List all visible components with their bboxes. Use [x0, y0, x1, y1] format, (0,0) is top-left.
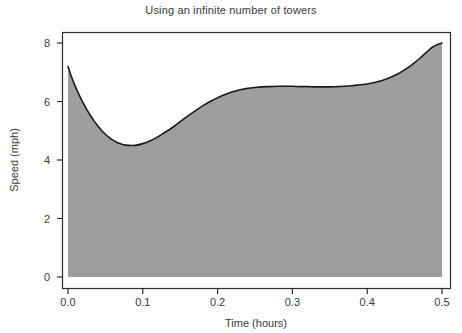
- x-axis: 0.00.10.20.30.40.5: [60, 289, 449, 309]
- x-tick-label: 0.1: [135, 296, 150, 308]
- y-tick-label: 2: [44, 213, 50, 225]
- speed-area-fill: [68, 43, 442, 277]
- x-tick-label: 0.3: [285, 296, 300, 308]
- y-axis-title: Speed (mph): [8, 128, 20, 192]
- y-tick-label: 6: [44, 96, 50, 108]
- y-tick-label: 4: [44, 154, 50, 166]
- x-tick-label: 0.4: [360, 296, 375, 308]
- x-tick-label: 0.5: [434, 296, 449, 308]
- y-tick-label: 0: [44, 271, 50, 283]
- y-axis: 02468: [44, 37, 63, 283]
- x-axis-title: Time (hours): [225, 317, 287, 329]
- chart-figure: Using an infinite number of towers 0.00.…: [0, 0, 462, 333]
- area-chart-plot: 0.00.10.20.30.40.5 02468 Time (hours) Sp…: [0, 0, 462, 333]
- x-tick-label: 0.2: [210, 296, 225, 308]
- x-tick-label: 0.0: [60, 296, 75, 308]
- y-tick-label: 8: [44, 37, 50, 49]
